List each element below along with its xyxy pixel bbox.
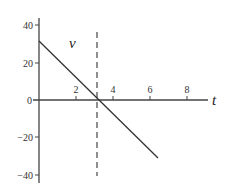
x-tick-2: 2 xyxy=(74,84,79,95)
x-tick-6: 6 xyxy=(148,84,153,95)
curve-label-v: v xyxy=(69,35,76,51)
x-tick-labels: 2 4 6 8 xyxy=(74,84,190,95)
y-tick-40: 40 xyxy=(23,20,33,31)
y-tick-neg40: −40 xyxy=(17,170,33,181)
y-tick-neg20: −20 xyxy=(17,132,33,143)
y-tick-0: 0 xyxy=(27,95,32,106)
x-tick-4: 4 xyxy=(111,84,116,95)
x-tick-8: 8 xyxy=(185,84,190,95)
velocity-time-chart: 40 20 0 −20 −40 2 4 6 8 t v xyxy=(0,0,226,192)
y-tick-labels: 40 20 0 −20 −40 xyxy=(17,20,33,181)
x-axis-label: t xyxy=(212,92,217,108)
y-tick-20: 20 xyxy=(23,58,33,69)
